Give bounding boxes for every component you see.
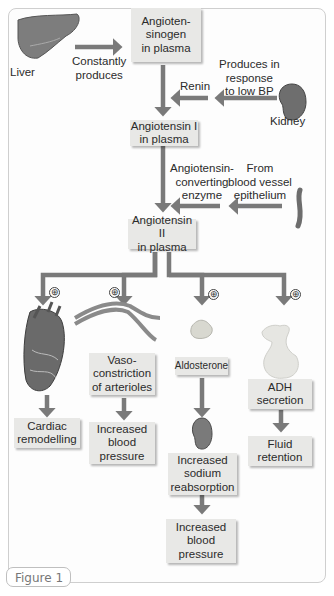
box-line: Fluid: [258, 438, 303, 452]
adh-secretion-box: ADH secretion: [248, 379, 312, 409]
box-line: retention: [258, 451, 303, 465]
from-vessel-label: From blood vessel epithelium: [228, 162, 292, 203]
box-line: Cardiac: [17, 420, 76, 434]
box-line: blood: [176, 534, 227, 548]
kidney-label: Kidney: [270, 115, 305, 129]
liver-label: Liver: [10, 66, 35, 80]
box-line: Angiotensin II: [128, 214, 196, 241]
aldosterone-box: Aldosterone: [175, 357, 228, 375]
box-line: Vaso-: [92, 354, 152, 368]
plus-icon: ⊕: [208, 289, 219, 300]
renin-label: Renin: [180, 80, 210, 94]
plus-icon: ⊕: [109, 287, 120, 298]
fluid-retention-box: Fluid retention: [248, 436, 312, 466]
label-line: Angiotensin-: [170, 162, 234, 176]
box-line: secretion: [257, 394, 304, 408]
box-line: blood: [97, 436, 148, 450]
ace-label: Angiotensin- converting enzyme: [170, 162, 234, 203]
increased-sodium-reabsorption-box: Increased sodium reabsorption: [168, 453, 237, 495]
label-line: converting: [170, 176, 234, 190]
increased-blood-pressure-box-2: Increased blood pressure: [166, 519, 236, 563]
angiotensin-ii-box: Angiotensin II in plasma: [128, 219, 196, 249]
box-line: in plasma: [131, 133, 198, 147]
flow-arrows: [0, 0, 334, 596]
box-line: sodium: [171, 467, 235, 481]
plus-icon: ⊕: [290, 289, 301, 300]
label-line: epithelium: [228, 189, 292, 203]
box-line: remodelling: [17, 433, 76, 447]
box-line: Angioten-: [141, 15, 190, 29]
box-line: reabsorption: [171, 481, 235, 495]
box-line: Increased: [176, 521, 227, 535]
label-line: blood vessel: [228, 176, 292, 190]
box-line: pressure: [176, 548, 227, 562]
box-line: of arterioles: [92, 381, 152, 395]
label-line: enzyme: [170, 189, 234, 203]
plus-icon: ⊕: [49, 287, 60, 298]
vasoconstriction-box: Vaso- constriction of arterioles: [89, 353, 155, 395]
label-line: to low BP: [219, 85, 280, 99]
box-line: Angiotensin I: [131, 120, 198, 134]
box-line: pressure: [97, 450, 148, 464]
box-line: Increased: [171, 454, 235, 468]
box-line: ADH: [257, 381, 304, 395]
figure-caption-tab: Figure 1: [6, 567, 71, 587]
angiotensin-i-box: Angiotensin I in plasma: [130, 120, 198, 146]
box-line: sinogen: [141, 28, 190, 42]
label-line: Constantly: [72, 55, 126, 69]
box-line: constriction: [92, 367, 152, 381]
constantly-produces-label: Constantly produces: [72, 55, 126, 82]
label-line: produces: [72, 69, 126, 83]
produces-low-bp-label: Produces in response to low BP: [219, 58, 280, 99]
cardiac-remodelling-box: Cardiac remodelling: [14, 418, 80, 448]
increased-blood-pressure-box: Increased blood pressure: [89, 422, 155, 464]
box-line: in plasma: [141, 42, 190, 56]
angiotensinogen-box: Angioten- sinogen in plasma: [131, 8, 201, 62]
box-line: in plasma: [128, 241, 196, 255]
label-line: response: [219, 72, 280, 86]
label-line: From: [228, 162, 292, 176]
box-line: Increased: [97, 423, 148, 437]
label-line: Produces in: [219, 58, 280, 72]
